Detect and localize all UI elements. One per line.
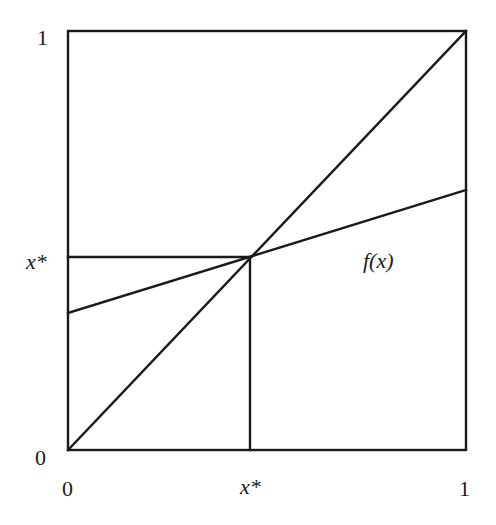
- f-of-x-label: f(x): [363, 248, 394, 273]
- x-tick-label-fixed-point: x*: [239, 474, 261, 499]
- f-of-x-line: [68, 190, 466, 313]
- x-tick-label-origin: 0: [62, 476, 73, 501]
- diagonal-line: [68, 31, 466, 450]
- fixed-point-diagram: 1 x* 0 0 x* 1 f(x): [0, 0, 496, 525]
- y-tick-label-origin: 0: [35, 445, 46, 470]
- x-tick-label-right: 1: [459, 476, 470, 501]
- y-tick-label-fixed-point: x*: [25, 249, 47, 274]
- y-tick-label-top: 1: [37, 25, 48, 50]
